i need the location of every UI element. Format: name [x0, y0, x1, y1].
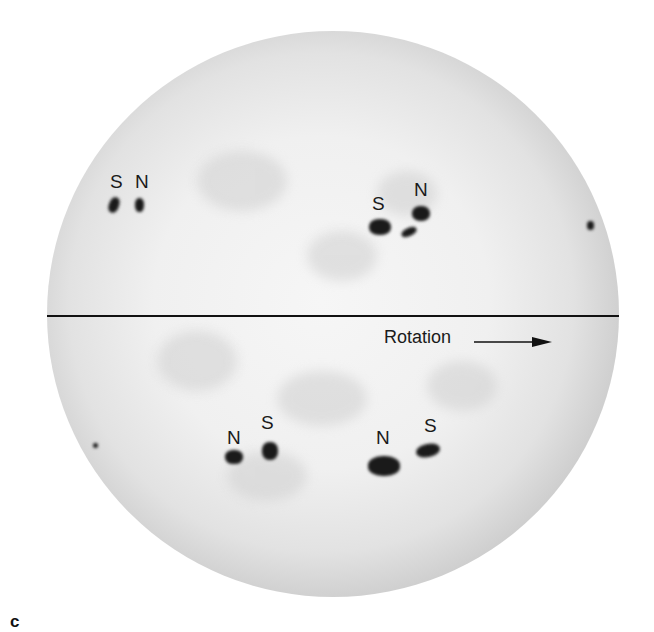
figure: S N S N Rotation N S N S c: [0, 0, 654, 632]
polarity-label-s: S: [424, 416, 437, 435]
sunspot: [412, 206, 430, 221]
rotation-label: Rotation: [384, 327, 451, 348]
mottle: [157, 331, 237, 391]
sunspot: [93, 443, 98, 448]
polarity-label-n: N: [227, 428, 241, 447]
equator-line: [47, 315, 619, 317]
polarity-label-n: N: [376, 428, 390, 447]
sunspot: [135, 198, 144, 212]
polarity-label-n: N: [135, 172, 149, 191]
polarity-label-s: S: [261, 413, 274, 432]
panel-label: c: [10, 612, 19, 632]
mottle: [277, 371, 367, 426]
polarity-label-s: S: [110, 172, 123, 191]
polarity-label-n: N: [414, 180, 428, 199]
sunspot: [262, 442, 278, 460]
mottle: [307, 231, 377, 281]
polarity-label-s: S: [372, 194, 385, 213]
mottle: [427, 361, 497, 411]
sunspot: [368, 456, 400, 476]
sunspot: [587, 221, 594, 230]
rotation-arrow-icon: [474, 336, 552, 348]
mottle: [197, 151, 287, 211]
sunspot: [369, 219, 391, 235]
sunspot: [225, 450, 243, 464]
sun-disk: [47, 31, 619, 597]
